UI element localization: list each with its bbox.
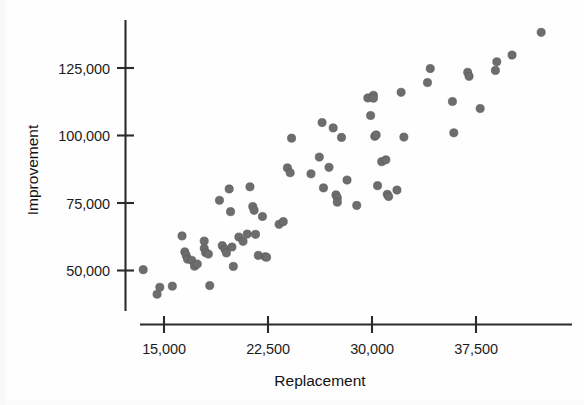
scatter-point (385, 192, 393, 200)
scatter-point (426, 64, 434, 72)
x-tick-label-37500: 37,500 (454, 341, 498, 357)
scatter-point (325, 163, 333, 171)
scatter-point (369, 94, 377, 102)
scatter-point (508, 51, 516, 59)
scatter-point (243, 230, 251, 238)
scatter-point (400, 133, 408, 141)
scatter-point (337, 133, 345, 141)
scatter-point (193, 260, 201, 268)
scatter-point (333, 198, 341, 206)
scatter-point (307, 170, 315, 178)
scatter-point (537, 28, 545, 36)
scatter-point (315, 153, 323, 161)
scatter-point (448, 97, 456, 105)
scatter-plot-figure: 50,000 75,000 100,000 125,000 15,000 22,… (0, 0, 584, 405)
scatter-point (168, 282, 176, 290)
scatter-point (206, 282, 214, 290)
scatter-point (287, 134, 295, 142)
scatter-point (318, 118, 326, 126)
scatter-point (423, 78, 431, 86)
scatter-point (178, 232, 186, 240)
scatter-point (372, 131, 380, 139)
x-axis-title: Replacement (274, 372, 366, 389)
y-axis-title: Improvement (24, 124, 41, 215)
scatter-point (465, 72, 473, 80)
scatter-point (139, 266, 147, 274)
scatter-point (382, 156, 390, 164)
scatter-point (397, 88, 405, 96)
scatter-point (493, 58, 501, 66)
scatter-point (491, 66, 499, 74)
scatter-point (251, 230, 259, 238)
y-tick-label-100000: 100,000 (58, 128, 110, 144)
scatter-point (373, 182, 381, 190)
scatter-point (204, 250, 212, 258)
x-tick-label-15000: 15,000 (142, 341, 186, 357)
scatter-point (343, 176, 351, 184)
scatter-point (228, 243, 236, 251)
scatter-points-layer (139, 28, 545, 298)
scatter-point (226, 208, 234, 216)
scatter-point (319, 184, 327, 192)
plot-area: 50,000 75,000 100,000 125,000 15,000 22,… (0, 0, 584, 405)
scatter-point (263, 253, 271, 261)
scatter-point (476, 104, 484, 112)
scatter-point (258, 212, 266, 220)
scatter-point (156, 283, 164, 291)
scatter-point (200, 237, 208, 245)
scatter-point (286, 169, 294, 177)
scatter-point (367, 111, 375, 119)
scatter-point (450, 129, 458, 137)
chart-svg: 50,000 75,000 100,000 125,000 15,000 22,… (0, 0, 584, 405)
y-tick-label-50000: 50,000 (66, 263, 110, 279)
y-tick-label-75000: 75,000 (66, 196, 110, 212)
scatter-point (250, 206, 258, 214)
x-tick-label-30000: 30,000 (350, 341, 394, 357)
scatter-point (215, 196, 223, 204)
scatter-point (279, 218, 287, 226)
scatter-point (329, 124, 337, 132)
scatter-point (393, 186, 401, 194)
scatter-point (353, 201, 361, 209)
x-tick-label-22500: 22,500 (246, 341, 290, 357)
scatter-point (229, 262, 237, 270)
y-tick-label-125000: 125,000 (58, 61, 110, 77)
scatter-point (225, 185, 233, 193)
scatter-point (239, 237, 247, 245)
scatter-point (246, 183, 254, 191)
